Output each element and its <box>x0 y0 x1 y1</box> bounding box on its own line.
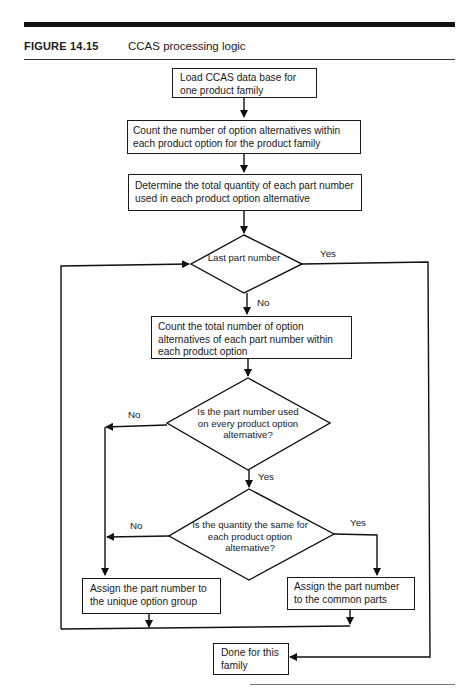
step-count-total-alternatives: Count the total number of option alterna… <box>151 316 352 359</box>
label-used-no: No <box>128 409 141 420</box>
bottom-rule <box>250 684 455 685</box>
step-assign-unique-option-group: Assign the part number to the unique opt… <box>82 578 221 614</box>
step-load-database: Load CCAS data base for one product fami… <box>172 68 317 98</box>
decision-used-on-every-alternative: Is the part number used on every product… <box>192 406 304 441</box>
step-determine-total-quantity: Determine the total quantity of each par… <box>128 174 362 211</box>
step-assign-common-parts: Assign the part number to the common par… <box>287 577 415 610</box>
label-qty-no: No <box>130 520 143 531</box>
label-used-yes: Yes <box>258 471 274 482</box>
label-last-no: No <box>257 297 270 308</box>
decision-last-part-number: Last part number <box>206 252 282 264</box>
step-count-option-alternatives: Count the number of option alternatives … <box>127 120 361 154</box>
label-qty-yes: Yes <box>350 517 366 528</box>
label-last-yes: Yes <box>320 248 336 259</box>
decision-quantity-same: Is the quantity the same for each produc… <box>189 519 311 554</box>
step-done-for-family: Done for this family <box>213 643 289 675</box>
